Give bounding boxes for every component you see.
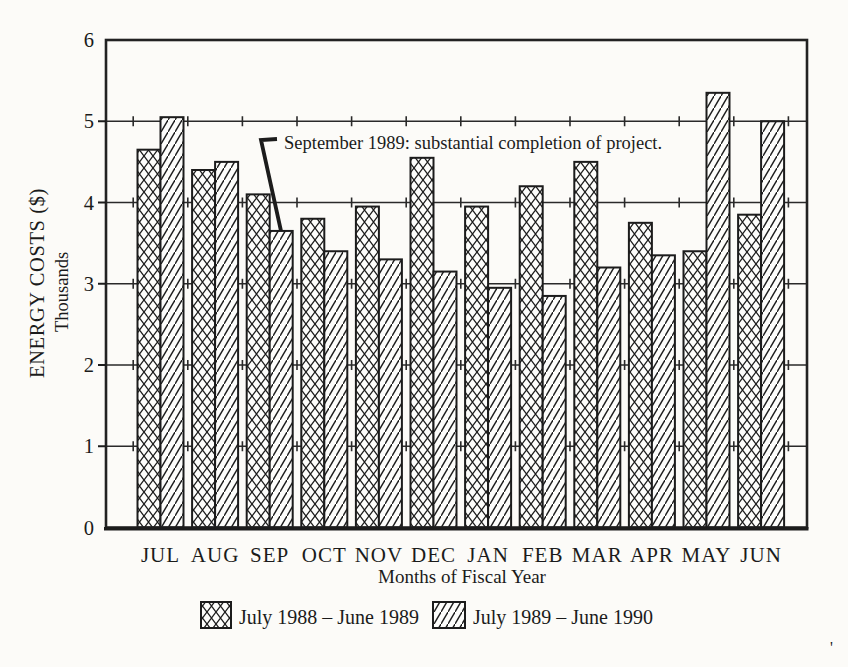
y-tick-label-1: 1 <box>84 435 94 457</box>
bar-jun-series1 <box>761 121 784 527</box>
y-tick-label-3: 3 <box>84 273 94 295</box>
energy-costs-bar-chart: 0123456 JULAUGSEPOCTNOVDECJANFEBMARAPRMA… <box>0 0 848 667</box>
month-label-oct: OCT <box>302 543 347 567</box>
y-axis-subtitle: Thousands <box>52 252 72 332</box>
scan-speck: ' <box>830 639 833 656</box>
scanned-chart-page: 0123456 JULAUGSEPOCTNOVDECJANFEBMARAPRMA… <box>0 0 848 667</box>
month-label-jan: JAN <box>467 543 509 567</box>
bar-apr-series1 <box>652 255 675 527</box>
bar-nov-series0 <box>356 207 379 528</box>
bar-oct-series1 <box>324 251 347 527</box>
x-axis-title: Months of Fiscal Year <box>378 566 547 587</box>
month-label-may: MAY <box>681 543 731 567</box>
bar-aug-series1 <box>215 162 238 528</box>
y-tick-label-5: 5 <box>84 110 94 132</box>
bar-may-series0 <box>684 251 707 527</box>
legend-label-1989-1990: July 1989 – June 1990 <box>473 606 653 629</box>
bar-jun-series0 <box>738 215 761 528</box>
bar-nov-series1 <box>379 259 402 527</box>
bar-oct-series0 <box>301 219 324 528</box>
bar-mar-series0 <box>574 162 597 528</box>
legend-swatch-crosshatch <box>201 602 231 628</box>
month-label-jul: JUL <box>141 543 180 567</box>
month-label-dec: DEC <box>411 543 456 567</box>
legend-label-1988-1989: July 1988 – June 1989 <box>239 606 419 629</box>
month-label-aug: AUG <box>191 543 240 567</box>
month-label-apr: APR <box>630 543 674 567</box>
bar-apr-series0 <box>629 223 652 528</box>
bar-dec-series1 <box>434 272 457 528</box>
y-tick-label-4: 4 <box>84 192 94 214</box>
month-label-mar: MAR <box>572 543 623 567</box>
bar-dec-series0 <box>411 158 434 528</box>
month-label-nov: NOV <box>355 543 404 567</box>
y-axis-title: ENERGY COSTS ($) <box>26 188 49 378</box>
legend-swatch-diagonal <box>433 602 465 628</box>
y-tick-label-2: 2 <box>84 354 94 376</box>
month-label-sep: SEP <box>250 543 289 567</box>
y-axis-tick-labels: 0123456 <box>84 29 94 539</box>
bar-jul-series1 <box>161 117 184 527</box>
month-label-jun: JUN <box>740 543 782 567</box>
bar-feb-series1 <box>543 296 566 528</box>
bar-mar-series1 <box>597 268 620 528</box>
bar-feb-series0 <box>520 186 543 527</box>
legend: July 1988 – June 1989 July 1989 – June 1… <box>201 602 653 629</box>
bar-sep-series0 <box>247 194 270 527</box>
bar-may-series1 <box>707 93 730 528</box>
bar-sep-series1 <box>270 231 293 528</box>
bar-aug-series0 <box>192 170 215 528</box>
month-label-feb: FEB <box>522 543 564 567</box>
bars <box>138 93 785 528</box>
y-tick-label-6: 6 <box>84 29 94 51</box>
bar-jan-series0 <box>465 207 488 528</box>
y-tick-label-0: 0 <box>84 517 94 539</box>
annotation-text: September 1989: substantial completion o… <box>284 133 662 153</box>
x-axis-tick-labels: JULAUGSEPOCTNOVDECJANFEBMARAPRMAYJUN <box>141 543 782 567</box>
bar-jul-series0 <box>138 150 161 528</box>
bar-jan-series1 <box>488 288 511 528</box>
